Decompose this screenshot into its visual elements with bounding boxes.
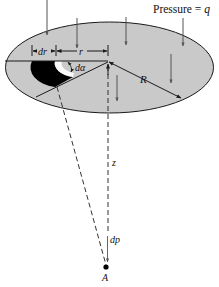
R-label: R [139,73,147,85]
circular-load-diagram: Pressure = q dr r dα R z dp A [0,0,219,287]
dr-label: dr [38,46,47,57]
pressure-label: Pressure = q [153,3,210,16]
d-alpha-label: dα [75,62,86,73]
r-label: r [79,46,83,57]
A-label: A [101,272,109,283]
dp-label: dp [110,234,120,245]
z-label: z [111,157,116,168]
point-A [103,264,108,269]
slant-dashed-line [57,87,106,265]
